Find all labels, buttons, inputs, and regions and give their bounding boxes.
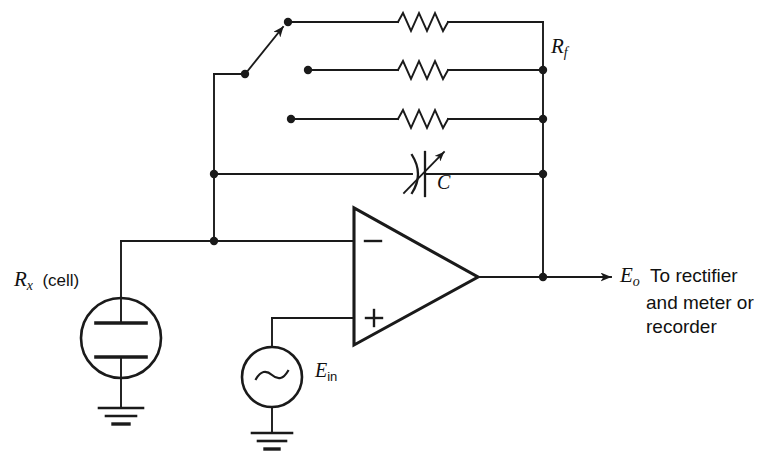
label-ein-symbol: E [315,359,327,381]
label-rx-suffix: (cell) [42,271,79,290]
ground-symbol-cell [99,408,143,424]
label-rx-symbol: R [14,267,27,291]
label-ein-subscript: in [327,369,337,384]
feedback-branch-capacitor[interactable] [214,152,543,196]
label-eo-line1: To rectifier [650,265,738,286]
conductivity-cell[interactable] [81,298,161,408]
circuit-diagram-figure: Rf C Rx (cell) Ein Eo To rectifier and m… [0,0,770,466]
ac-signal-generator[interactable] [242,347,302,433]
feedback-branch-resistor-bottom[interactable] [291,110,543,128]
opamp-triangle-body [354,208,478,345]
switch-contact-dot-1[interactable] [284,18,292,26]
feedback-branch-resistor-top[interactable] [288,13,543,31]
label-cell-resistor: Rx (cell) [14,266,79,295]
label-eo-subscript: o [633,274,640,289]
label-feedback-capacitor: C [437,170,450,196]
label-input-source: Ein [315,358,337,385]
label-c-symbol: C [437,171,450,193]
label-output-destination: Eo To rectifier and meter or recorder [620,262,754,339]
switch-blade[interactable] [246,27,283,73]
resistor-bottom-zigzag [398,110,448,128]
label-eo-line3: recorder [646,315,754,339]
ground-symbol-source [252,433,292,449]
label-feedback-resistor: Rf [551,33,568,62]
label-eo-line2: and meter or [646,291,754,315]
label-rf-subscript: f [564,45,568,60]
operational-amplifier[interactable] [354,208,543,345]
ac-source-circle [242,347,302,407]
junction-dot-right-bottom [539,115,547,123]
junction-dot-right-middle [539,66,547,74]
range-selector-switch[interactable] [214,27,283,74]
switch-contact-dot-2[interactable] [304,66,312,74]
sine-wave-icon [256,371,288,379]
junction-dot-left-capacitor [210,170,218,178]
switch-contact-dot-3[interactable] [287,115,295,123]
resistor-middle-zigzag [398,61,448,79]
circuit-schematic-canvas [0,0,770,466]
feedback-branch-resistor-middle[interactable] [308,61,543,79]
label-rf-symbol: R [551,34,564,58]
switch-pivot-dot[interactable] [241,70,249,78]
resistor-top-zigzag [398,13,448,31]
label-eo-symbol: E [620,263,633,287]
junction-dot-right-capacitor [539,170,547,178]
